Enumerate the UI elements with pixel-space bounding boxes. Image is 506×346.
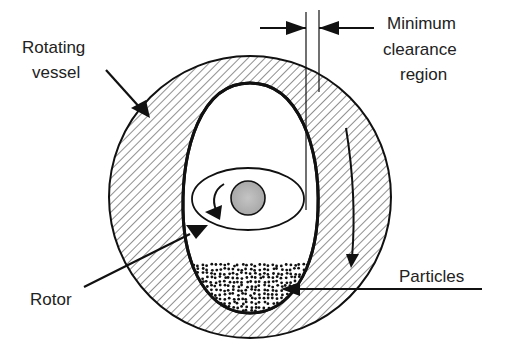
label-min-clearance-line2: clearance [383, 40, 457, 59]
rotating-vessel-diagram: Rotating vessel Minimum clearance region… [0, 0, 506, 346]
label-rotating-vessel-line2: vessel [32, 63, 80, 82]
label-min-clearance-line1: Minimum [387, 14, 456, 33]
label-particles: Particles [399, 267, 464, 286]
label-min-clearance-line3: region [400, 65, 447, 84]
rotor [231, 181, 265, 215]
rotating-vessel-leader [106, 70, 150, 118]
label-rotor: Rotor [30, 290, 72, 309]
label-rotating-vessel-line1: Rotating [22, 38, 85, 57]
